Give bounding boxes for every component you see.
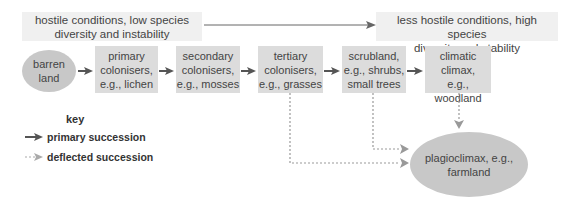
key-deflected-label: deflected succession <box>47 151 153 163</box>
key-primary-arrow-icon <box>25 133 43 141</box>
primary-arrow-icon <box>241 67 256 75</box>
deflected-arrow-icon <box>290 93 459 163</box>
primary-arrow-icon <box>78 67 93 75</box>
primary-arrow-icon <box>324 67 340 75</box>
key-primary-label: primary succession <box>47 131 146 143</box>
primary-arrow-icon <box>407 67 423 75</box>
arrows-layer <box>0 0 567 202</box>
key-deflected-arrow-icon <box>25 153 43 161</box>
key-title: key <box>66 113 84 125</box>
deflected-arrowheads <box>400 120 464 168</box>
primary-arrow-icon <box>159 67 174 75</box>
conditions-arrow-icon <box>204 21 376 29</box>
